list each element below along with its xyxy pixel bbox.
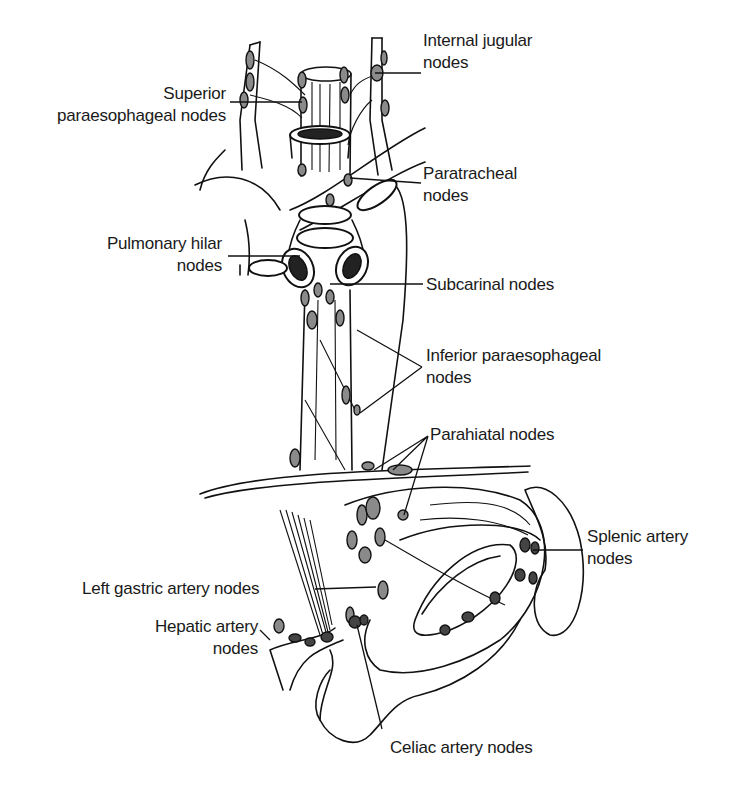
- label-paratracheal-nodes: Paratracheal nodes: [423, 163, 517, 207]
- anatomical-diagram: Internal jugular nodes Superior paraesop…: [0, 0, 731, 785]
- label-celiac-artery-nodes: Celiac artery nodes: [390, 737, 533, 759]
- lymphatic-channels: [250, 60, 530, 605]
- label-subcarinal-nodes: Subcarinal nodes: [426, 274, 554, 296]
- label-internal-jugular-nodes: Internal jugular nodes: [423, 30, 532, 74]
- label-parahiatal-nodes: Parahiatal nodes: [430, 424, 554, 446]
- label-superior-paraesophageal-nodes: Superior paraesophageal nodes: [10, 83, 226, 127]
- pancreas: [316, 620, 520, 742]
- diaphragm: [200, 466, 530, 498]
- subclavian-vessel: [200, 150, 225, 190]
- diaphragm-crus: [280, 510, 332, 635]
- label-hepatic-artery-nodes: Hepatic artery nodes: [100, 616, 258, 660]
- label-splenic-artery-nodes: Splenic artery nodes: [587, 526, 688, 570]
- label-left-gastric-artery-nodes: Left gastric artery nodes: [82, 578, 259, 600]
- label-pulmonary-hilar-nodes: Pulmonary hilar nodes: [40, 233, 222, 277]
- label-inferior-paraesophageal-nodes: Inferior paraesophageal nodes: [426, 345, 601, 389]
- spleen: [525, 487, 583, 635]
